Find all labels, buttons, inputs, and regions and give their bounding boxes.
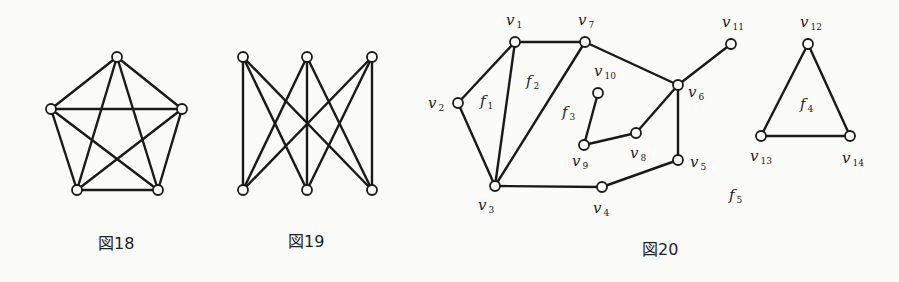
edge-v1-v2 [458, 42, 515, 103]
vertex-t3 [367, 52, 377, 62]
edge-v4-v5 [602, 160, 678, 187]
caption-fig20: 図20 [642, 240, 678, 259]
face-label-f2: f2 [525, 72, 539, 91]
edge-b-e [51, 109, 158, 190]
edge-v8-v9 [584, 133, 636, 145]
vertex-b1 [238, 185, 248, 195]
face-label-f5: f5 [728, 186, 743, 205]
vertex-label-v12: v12 [800, 13, 822, 32]
vertex-v8 [631, 128, 641, 138]
vertex-t1 [238, 52, 248, 62]
edge-v12-v14 [808, 44, 850, 136]
vertex-v9 [579, 140, 589, 150]
vertex-label-v8: v8 [630, 144, 646, 163]
vertex-label-v14: v14 [842, 149, 864, 168]
vertex-v3 [490, 181, 500, 191]
edge-a-c [117, 57, 182, 109]
figure-20-plane-graph: v1v2v3v4v5v6v7v8v9v10v11v12v13v14f1f2f3f… [428, 11, 864, 218]
vertex-label-v5: v5 [690, 153, 706, 172]
face-label-f3: f3 [561, 103, 576, 122]
vertex-d [72, 185, 82, 195]
vertex-label-v13: v13 [750, 147, 772, 166]
face-label-f1: f1 [479, 92, 493, 111]
edge-b-d [51, 109, 77, 190]
vertex-v2 [453, 98, 463, 108]
caption-fig19: 図19 [288, 232, 324, 251]
figure-18-k5-graph [46, 52, 187, 195]
edge-c-e [158, 109, 182, 190]
edge-a-b [51, 57, 117, 109]
edge-v9-v10 [584, 93, 598, 145]
edge-v3-v4 [495, 186, 602, 187]
vertex-v4 [597, 182, 607, 192]
vertex-v6 [673, 80, 683, 90]
vertex-label-v9: v9 [572, 152, 588, 171]
vertex-a [112, 52, 122, 62]
vertex-label-v3: v3 [478, 196, 494, 215]
graph-figures-canvas: v1v2v3v4v5v6v7v8v9v10v11v12v13v14f1f2f3f… [0, 0, 899, 282]
vertex-v10 [593, 88, 603, 98]
vertex-v12 [803, 39, 813, 49]
vertex-label-v1: v1 [506, 11, 522, 30]
edge-v12-v13 [761, 44, 808, 136]
vertex-v1 [510, 37, 520, 47]
vertex-label-v11: v11 [722, 13, 744, 32]
vertex-label-v2: v2 [428, 94, 444, 113]
vertex-v5 [673, 155, 683, 165]
edge-v6-v8 [636, 85, 678, 133]
figure-19-k33-graph [238, 52, 377, 195]
vertex-c [177, 104, 187, 114]
vertex-label-v4: v4 [593, 199, 609, 218]
caption-fig18: 図18 [98, 234, 134, 253]
vertex-b [46, 104, 56, 114]
face-label-f4: f4 [799, 95, 814, 114]
edge-c-d [77, 109, 182, 190]
edge-v6-v11 [678, 44, 731, 85]
vertex-label-v6: v6 [688, 83, 704, 102]
edge-a-d [77, 57, 117, 190]
vertex-e [153, 185, 163, 195]
edge-v1-v3 [495, 42, 515, 186]
vertex-label-v10: v10 [594, 62, 616, 81]
vertex-b2 [302, 185, 312, 195]
vertex-v13 [756, 131, 766, 141]
edge-a-e [117, 57, 158, 190]
vertex-v7 [580, 37, 590, 47]
vertex-v11 [726, 39, 736, 49]
vertex-b3 [367, 185, 377, 195]
vertex-t2 [302, 52, 312, 62]
edge-v2-v3 [458, 103, 495, 186]
vertex-v14 [845, 131, 855, 141]
vertex-label-v7: v7 [578, 11, 594, 30]
